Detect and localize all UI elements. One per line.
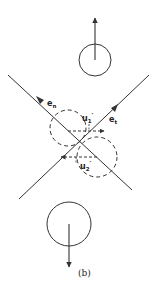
- label-u1: u1′: [82, 112, 94, 124]
- top-particle: [79, 18, 111, 76]
- label-e-n: en: [47, 99, 56, 109]
- axes: [8, 75, 149, 199]
- label-e-t: et: [109, 115, 117, 125]
- collision-diagram: en et u1′ u2′ (b): [0, 0, 157, 284]
- normal-axis-line: [8, 75, 132, 190]
- panel-label: (b): [78, 268, 91, 278]
- bottom-particle: [47, 202, 91, 267]
- particle-1-dashed-circle: [50, 110, 86, 146]
- normal-arrow-icon: [36, 96, 44, 104]
- label-u2: u2′: [80, 160, 92, 172]
